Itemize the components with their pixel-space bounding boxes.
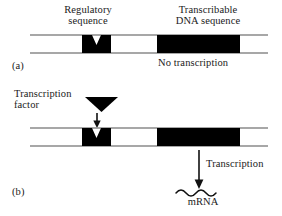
transcription-arrow-label: Transcription bbox=[206, 158, 264, 169]
panel-a-label: (a) bbox=[12, 60, 24, 71]
transcription-factor-triangle-icon bbox=[85, 97, 118, 112]
panel-b-regulatory-sequence-box bbox=[82, 128, 111, 146]
mrna-label: mRNA bbox=[180, 196, 226, 207]
transcribable-dna-sequence-label: Transcribable DNA sequence bbox=[160, 4, 256, 26]
regulatory-sequence-label-line1: Regulatory bbox=[50, 4, 126, 15]
no-transcription-status-label: No transcription bbox=[158, 57, 228, 68]
panel-b-group bbox=[30, 97, 268, 196]
transcribable-dna-label-line1: Transcribable bbox=[160, 4, 256, 15]
transcribable-dna-label-line2: DNA sequence bbox=[160, 15, 256, 26]
transcription-regulation-figure: Regulatory sequence Transcribable DNA se… bbox=[0, 0, 282, 216]
transcription-arrow-head bbox=[195, 180, 204, 190]
panel-b-transcribable-dna-box bbox=[157, 128, 240, 146]
transcription-factor-label-line2: factor bbox=[14, 99, 72, 110]
panel-a-group bbox=[30, 35, 268, 53]
transcription-factor-binding-arrow-head bbox=[93, 121, 100, 129]
panel-b-label: (b) bbox=[12, 186, 25, 197]
transcription-factor-label: Transcription factor bbox=[14, 88, 72, 110]
regulatory-sequence-label-line2: sequence bbox=[50, 15, 126, 26]
transcription-factor-label-line1: Transcription bbox=[14, 88, 72, 99]
regulatory-sequence-label: Regulatory sequence bbox=[50, 4, 126, 26]
panel-a-regulatory-sequence-box bbox=[82, 35, 111, 53]
panel-a-transcribable-dna-box bbox=[157, 35, 240, 53]
